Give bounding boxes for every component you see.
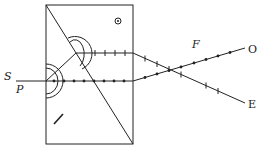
label-source: S (4, 70, 12, 83)
label-extraordinary: E (248, 98, 256, 111)
ray-o-exit (133, 48, 245, 81)
label-ordinary: O (248, 43, 257, 56)
prism-interface (46, 5, 133, 144)
diagram-canvas: S P F O E (0, 0, 263, 148)
ray-e-exit (133, 53, 245, 103)
optic-axis-slash-icon (54, 114, 63, 124)
label-focus: F (191, 38, 200, 51)
label-polarizer: P (15, 83, 24, 96)
ray-e-refracted (46, 53, 76, 81)
